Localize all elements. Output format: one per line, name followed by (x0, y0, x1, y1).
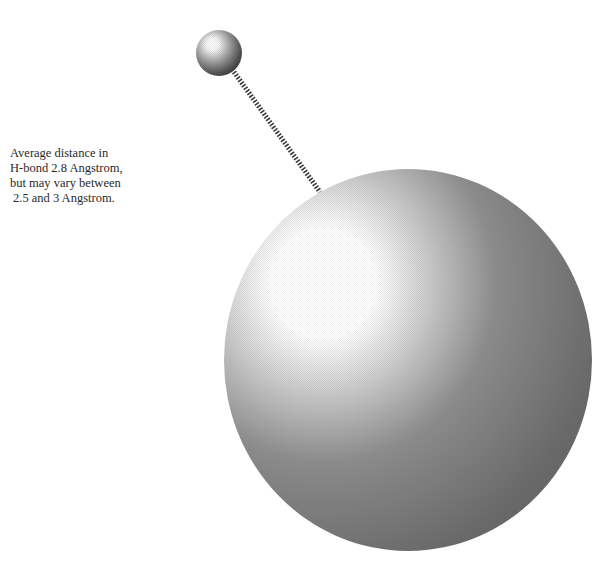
small-atom-sphere (196, 30, 242, 76)
large-atom-sphere (224, 169, 592, 551)
diagram-canvas: Average distance in H-bond 2.8 Angstrom,… (0, 0, 616, 574)
molecule-illustration (0, 0, 616, 574)
hydrogen-bond-line (234, 72, 320, 192)
